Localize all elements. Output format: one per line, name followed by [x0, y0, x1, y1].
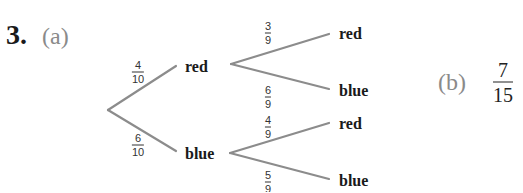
branch-blue-blue	[230, 153, 329, 179]
probability-tree-branches	[0, 0, 523, 192]
denominator: 15	[493, 85, 513, 105]
branch-blue-red	[230, 123, 329, 153]
prob-blue-red: 4 9	[265, 115, 271, 140]
denominator: 10	[132, 147, 144, 158]
part-b-label: (b)	[438, 70, 466, 94]
numerator: 4	[265, 115, 271, 126]
denominator: 9	[265, 99, 271, 110]
numerator: 5	[265, 170, 271, 181]
denominator: 9	[265, 184, 271, 193]
prob-first-blue: 6 10	[132, 133, 144, 158]
denominator: 10	[132, 74, 144, 85]
part-b-answer: 7 15	[493, 60, 513, 105]
prob-red-red: 3 9	[265, 21, 271, 46]
node-red-red: red	[339, 26, 362, 42]
numerator: 3	[265, 21, 271, 32]
denominator: 9	[265, 35, 271, 46]
numerator: 4	[135, 60, 141, 71]
denominator: 9	[265, 129, 271, 140]
numerator: 6	[135, 133, 141, 144]
prob-red-blue: 6 9	[265, 85, 271, 110]
numerator: 6	[265, 85, 271, 96]
branch-red-red	[231, 34, 329, 64]
fraction-bar	[493, 82, 513, 83]
node-first-red: red	[185, 59, 208, 75]
prob-first-red: 4 10	[132, 60, 144, 85]
node-blue-blue: blue	[339, 173, 368, 189]
prob-blue-blue: 5 9	[265, 170, 271, 193]
branch-red-blue	[231, 64, 329, 89]
numerator: 7	[498, 60, 508, 80]
node-first-blue: blue	[185, 146, 214, 162]
node-blue-red: red	[339, 116, 362, 132]
node-red-blue: blue	[339, 83, 368, 99]
